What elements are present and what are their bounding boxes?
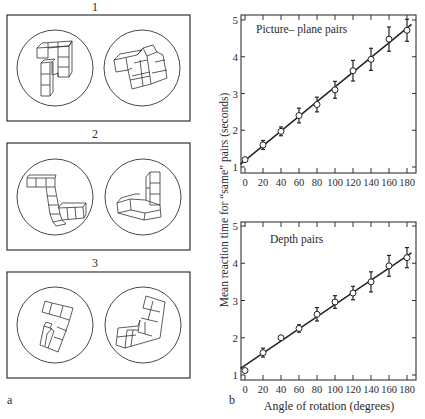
data-point xyxy=(386,263,392,269)
panel-a: 1 2 3 a xyxy=(7,0,190,407)
data-point xyxy=(386,36,392,42)
data-point xyxy=(350,290,356,296)
x-tick-label: 80 xyxy=(312,177,323,188)
x-axis-label: Angle of rotation (degrees) xyxy=(264,399,394,413)
x-tick-label: 0 xyxy=(242,384,247,395)
y-tick-label: 5 xyxy=(233,220,239,232)
cube-figure-icon xyxy=(37,41,72,96)
x-tick-label: 60 xyxy=(294,177,305,188)
chart-title: Depth pairs xyxy=(270,233,324,246)
y-axis-label: Mean reaction time for “same” pairs (sec… xyxy=(218,93,231,308)
data-point xyxy=(404,255,410,261)
panel-b: b Mean reaction time for “same” pairs (s… xyxy=(218,14,416,413)
x-tick-label: 180 xyxy=(399,177,415,188)
stimulus-box-3 xyxy=(7,272,190,378)
y-tick-label: 5 xyxy=(233,14,239,26)
data-point xyxy=(278,128,284,134)
stimulus-2-number: 2 xyxy=(92,127,98,141)
x-tick-label: 140 xyxy=(363,177,379,188)
picture-plane-chart: 12345020406080100120140160180Picture– pl… xyxy=(233,14,417,188)
stimulus-1-number: 1 xyxy=(92,0,98,14)
panel-a-label: a xyxy=(7,393,13,407)
stimulus-3-number: 3 xyxy=(92,256,98,270)
data-point xyxy=(296,113,302,119)
cube-figure-icon xyxy=(116,296,165,348)
x-tick-label: 80 xyxy=(312,384,323,395)
x-tick-label: 120 xyxy=(345,384,361,395)
regression-line xyxy=(241,24,412,164)
data-point xyxy=(260,142,266,148)
x-tick-label: 100 xyxy=(327,384,343,395)
stimulus-box-1 xyxy=(7,15,190,121)
stimulus-1-left-circle xyxy=(17,30,93,106)
x-tick-label: 40 xyxy=(276,384,287,395)
y-tick-label: 2 xyxy=(233,332,239,344)
y-tick-label: 4 xyxy=(233,257,239,269)
stimulus-2-right-circle xyxy=(105,159,181,235)
data-point xyxy=(368,279,374,285)
data-point xyxy=(332,87,338,93)
stimulus-3-right-circle xyxy=(105,287,181,363)
stimulus-2-left-circle xyxy=(17,159,93,235)
x-tick-label: 140 xyxy=(363,384,379,395)
data-point xyxy=(242,368,248,374)
x-tick-label: 20 xyxy=(258,177,269,188)
chart-title: Picture– plane pairs xyxy=(256,23,348,36)
data-point xyxy=(314,102,320,108)
plot-frame xyxy=(241,222,416,380)
x-tick-label: 0 xyxy=(242,177,247,188)
cube-figure-icon xyxy=(27,175,86,226)
data-point xyxy=(368,56,374,62)
y-tick-label: 3 xyxy=(233,295,239,307)
data-point xyxy=(350,68,356,74)
data-point xyxy=(296,325,302,331)
x-tick-label: 120 xyxy=(345,177,361,188)
y-tick-label: 1 xyxy=(233,161,239,173)
x-tick-label: 160 xyxy=(381,384,397,395)
cube-figure-icon xyxy=(114,45,167,89)
stimulus-box-2 xyxy=(7,143,190,250)
y-tick-label: 1 xyxy=(233,369,239,381)
stimulus-3-left-circle xyxy=(17,287,93,363)
data-point xyxy=(242,157,248,163)
data-point xyxy=(332,299,338,305)
figure: 1 2 3 a xyxy=(0,0,425,419)
depth-pairs-chart: 12345020406080100120140160180Depth pairs xyxy=(233,220,417,395)
cube-figure-icon xyxy=(117,172,161,220)
x-tick-label: 40 xyxy=(276,177,287,188)
x-tick-label: 160 xyxy=(381,177,397,188)
y-tick-label: 4 xyxy=(233,51,239,63)
y-tick-label: 3 xyxy=(233,88,239,100)
data-point xyxy=(260,350,266,356)
x-tick-label: 60 xyxy=(294,384,305,395)
panel-b-label: b xyxy=(229,393,235,407)
x-tick-label: 20 xyxy=(258,384,269,395)
y-tick-label: 2 xyxy=(233,124,239,136)
x-tick-label: 100 xyxy=(327,177,343,188)
regression-line xyxy=(241,253,412,368)
data-point xyxy=(278,335,284,341)
cube-figure-icon xyxy=(40,301,73,352)
x-tick-label: 180 xyxy=(399,384,415,395)
data-point xyxy=(404,27,410,33)
data-point xyxy=(314,311,320,317)
